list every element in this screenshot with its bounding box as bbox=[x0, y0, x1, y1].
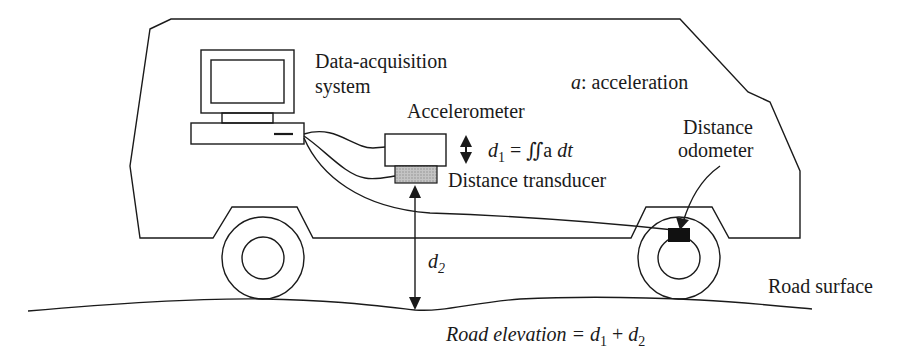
label-distance: Distance bbox=[683, 116, 753, 138]
label-acceleration: a: acceleration bbox=[571, 71, 688, 93]
road-surface-line bbox=[28, 297, 812, 311]
label-odometer: odometer bbox=[678, 139, 754, 161]
label-distance-transducer: Distance transducer bbox=[448, 169, 607, 191]
label-system: system bbox=[315, 75, 371, 98]
label-road-surface: Road surface bbox=[768, 275, 873, 297]
vehicle-measurement-diagram: Data-acquisition system Accelerometer a:… bbox=[0, 0, 911, 364]
label-data-acquisition: Data-acquisition bbox=[315, 50, 447, 73]
label-accelerometer: Accelerometer bbox=[407, 100, 525, 122]
odometer-pointer-arrow bbox=[676, 166, 720, 230]
label-road-elevation: Road elevation = d1 + d2 bbox=[445, 323, 645, 349]
distance-transducer-box bbox=[395, 166, 437, 183]
d1-double-arrow bbox=[460, 135, 472, 164]
distance-odometer-sensor bbox=[668, 228, 690, 242]
label-d2: d2 bbox=[428, 250, 445, 276]
computer-icon bbox=[191, 50, 304, 144]
label-d1-formula: d1 = ∬a dt bbox=[488, 139, 573, 165]
accelerometer-box bbox=[385, 134, 446, 166]
d2-arrow bbox=[409, 185, 421, 310]
front-wheel bbox=[222, 217, 304, 299]
